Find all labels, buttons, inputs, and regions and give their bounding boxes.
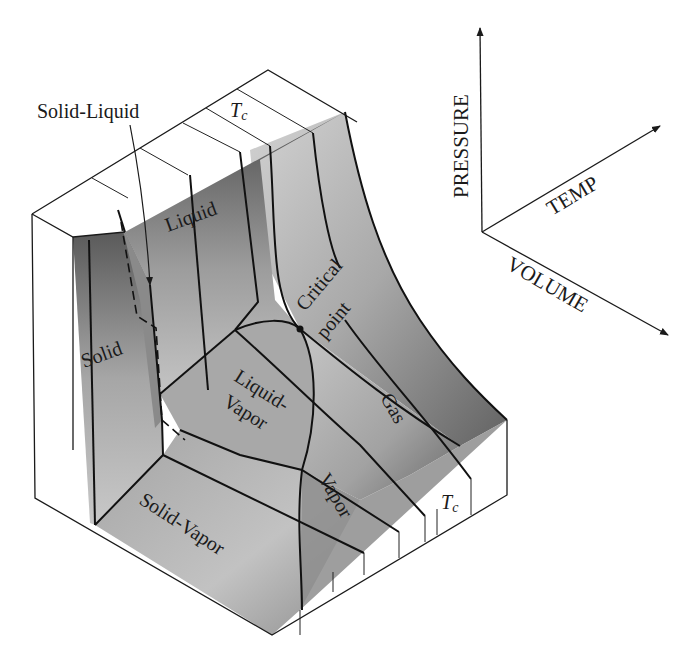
axis-label-volume: VOLUME <box>503 252 593 318</box>
label-solid-liquid: Solid-Liquid <box>37 100 139 123</box>
axes: PRESSURE TEMP VOLUME <box>449 28 668 335</box>
volume-axis <box>482 232 668 335</box>
pressure-axis <box>480 28 482 232</box>
axis-label-pressure: PRESSURE <box>449 94 473 198</box>
pvt-surface-diagram: Solid-Liquid Liquid Solid Critical point… <box>0 0 690 661</box>
temperature-axis <box>482 126 660 232</box>
critical-point-marker <box>297 326 304 333</box>
